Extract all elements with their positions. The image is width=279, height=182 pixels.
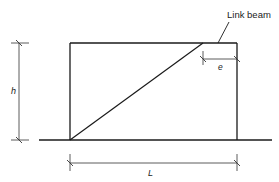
diagonal-brace xyxy=(70,43,203,140)
length-label: L xyxy=(148,168,153,178)
eccentricity-label: e xyxy=(218,62,223,72)
braced-frame-diagram: Link beam h L e xyxy=(0,0,279,182)
link-beam-label: Link beam xyxy=(227,9,271,20)
length-dimension xyxy=(67,154,240,171)
height-label: h xyxy=(11,86,16,96)
link-beam-leader xyxy=(218,22,229,43)
